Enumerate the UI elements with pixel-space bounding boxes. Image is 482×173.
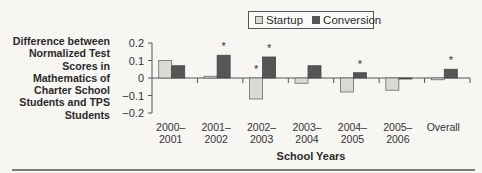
x-category-label: Overall	[427, 121, 460, 133]
significance-marker: *	[449, 54, 454, 66]
y-tick-label: −0.1	[122, 90, 144, 102]
bar-chart: 0.20.10−0.1−0.22000–2001*2001–2002**2002…	[0, 0, 482, 173]
x-category-label: 2003	[250, 133, 274, 145]
y-tick-label: 0.2	[129, 37, 144, 49]
x-category-label: 2001	[159, 133, 183, 145]
significance-marker: *	[254, 63, 259, 75]
x-category-label: 2004–	[338, 121, 367, 133]
conversion-bar	[353, 73, 366, 78]
x-category-label: 2003–	[292, 121, 321, 133]
startup-bar	[250, 78, 263, 99]
x-category-label: 2002–	[247, 121, 276, 133]
x-category-label: 2000–	[156, 121, 185, 133]
significance-marker: *	[222, 40, 227, 52]
significance-marker: *	[267, 42, 272, 54]
conversion-bar	[444, 69, 457, 78]
x-category-label: 2006	[386, 133, 410, 145]
x-axis-title: School Years	[200, 150, 422, 162]
startup-bar	[340, 78, 353, 92]
startup-bar	[295, 78, 308, 83]
x-category-label: 2004	[295, 133, 319, 145]
startup-bar	[204, 76, 217, 78]
startup-bar	[159, 61, 172, 79]
y-tick-label: 0	[138, 72, 144, 84]
conversion-bar	[399, 78, 412, 79]
bottom-divider	[12, 169, 475, 171]
startup-bar	[431, 78, 444, 80]
x-category-label: 2005–	[383, 121, 412, 133]
conversion-bar	[263, 57, 276, 78]
y-tick-label: −0.2	[122, 107, 144, 119]
y-tick-label: 0.1	[129, 55, 144, 67]
x-category-label: 2005	[341, 133, 365, 145]
conversion-bar	[172, 66, 185, 78]
conversion-bar	[308, 66, 321, 78]
conversion-bar	[217, 55, 230, 78]
significance-marker: *	[358, 58, 363, 70]
startup-bar	[386, 78, 399, 90]
x-category-label: 2002	[204, 133, 228, 145]
x-category-label: 2001–	[202, 121, 231, 133]
